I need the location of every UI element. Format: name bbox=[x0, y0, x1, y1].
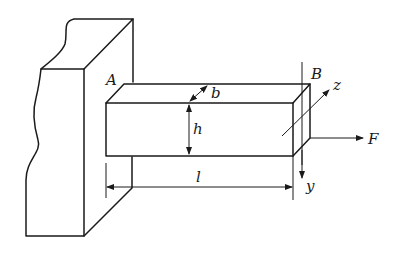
label-b-end: B bbox=[310, 65, 322, 83]
label-width: b bbox=[211, 84, 221, 102]
label-height: h bbox=[193, 120, 203, 138]
label-length: l bbox=[196, 168, 201, 186]
label-a: A bbox=[104, 71, 117, 89]
z-axis-arrow bbox=[282, 90, 329, 136]
label-force: F bbox=[367, 130, 379, 148]
wall-support bbox=[26, 19, 133, 236]
beam bbox=[106, 84, 310, 156]
width-dimension bbox=[190, 86, 207, 101]
label-y-axis: y bbox=[305, 177, 315, 195]
label-z-axis: z bbox=[332, 76, 341, 94]
cantilever-diagram: A B b h l F y z bbox=[0, 0, 398, 257]
